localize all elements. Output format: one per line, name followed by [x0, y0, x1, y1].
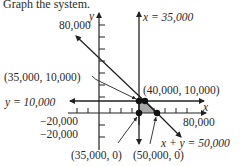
y-tick-bottom-label: −20,000 — [40, 128, 78, 140]
vertex-35000-0 — [136, 110, 142, 116]
vertex-50000-0 — [154, 110, 160, 116]
vertex-40000-10000 — [142, 98, 148, 104]
callout-50000-0 — [150, 117, 156, 144]
line-diagonal-label: x + y = 50,000 — [161, 137, 230, 149]
vertex-label-35000-0: (35,000, 0) — [71, 149, 122, 161]
line-x-plus-y-50000-down — [145, 101, 181, 137]
x-tick-right-label: 80,000 — [183, 116, 215, 128]
vertex-label-40000-10000: (40,000, 10,000) — [143, 84, 220, 96]
vertex-35000-10000 — [136, 98, 142, 104]
x-ticks — [77, 108, 187, 113]
vertex-label-35000-10000: (35,000, 10,000) — [4, 71, 81, 83]
line-horizontal-label: y = 10,000 — [5, 96, 55, 108]
vertex-label-50000-0: (50,000, 0) — [133, 149, 184, 161]
y-tick-top-label: 80,000 — [59, 19, 91, 31]
x-axis-label: x — [203, 101, 208, 113]
line-vertical-label: x = 35,000 — [143, 11, 193, 23]
x-tick-left-label: −20,000 — [40, 115, 78, 127]
callout-35000-0 — [118, 117, 137, 143]
